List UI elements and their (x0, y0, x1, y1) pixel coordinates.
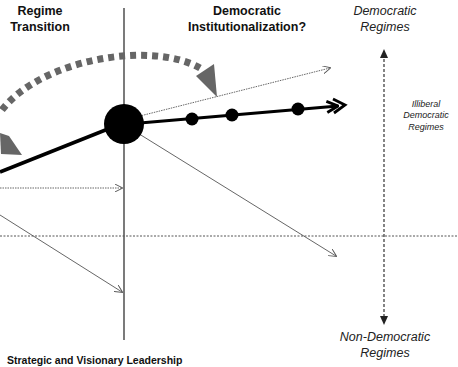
footer-caption: Strategic and Visionary Leadership (7, 354, 247, 367)
phase-label-line: Institutionalization? (172, 20, 322, 36)
trajectory-node-3 (292, 103, 305, 116)
dotted-arc-arrow (2, 55, 200, 110)
regime-label-line: Democratic (340, 4, 430, 20)
phase-label-line: Regime (5, 4, 75, 20)
arrow-down-icon (380, 316, 388, 325)
regime-label-non-democratic: Non-Democratic Regimes (330, 330, 440, 361)
regime-label-line: Regimes (330, 346, 440, 362)
regime-label-line: Illiberal (394, 99, 458, 110)
outcome-arrow-non-democratic (136, 132, 336, 256)
regime-label-line: Democratic (394, 110, 458, 121)
regime-label-line: Regimes (394, 122, 458, 133)
regime-label-democratic: Democratic Regimes (340, 4, 430, 35)
phase-label-line: Transition (5, 20, 75, 36)
phase-label-democratic-institutionalization: Democratic Institutionalization? (172, 4, 322, 35)
transition-node (104, 104, 144, 144)
trajectory-node-2 (226, 109, 239, 122)
arrow-up-icon (380, 49, 388, 58)
phase-label-line: Democratic (172, 4, 322, 20)
footer-caption-text: Strategic and Visionary Leadership (7, 354, 247, 367)
phase-label-regime-transition: Regime Transition (5, 4, 75, 35)
pre-transition-arrow-diagonal (0, 215, 122, 292)
arc-arrowhead-left-icon (0, 133, 22, 155)
trajectory-node-1 (186, 113, 199, 126)
trajectory-line-before (0, 125, 118, 172)
regime-label-illiberal-democratic: Illiberal Democratic Regimes (394, 99, 458, 133)
regime-label-line: Regimes (340, 20, 430, 36)
regime-label-line: Non-Democratic (330, 330, 440, 346)
